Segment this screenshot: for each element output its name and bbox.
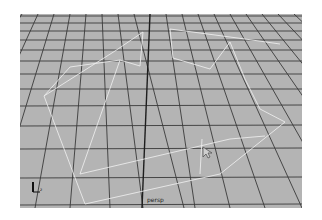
grid-floor [20,14,302,208]
svg-text:z: z [40,187,42,192]
axis-gizmo-icon: z [30,180,44,196]
camera-label: persp [147,196,164,203]
mouse-cursor-icon [202,146,214,160]
perspective-viewport[interactable]: z persp [20,14,302,208]
